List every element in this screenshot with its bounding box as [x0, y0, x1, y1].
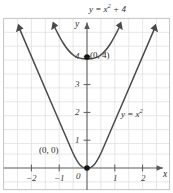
- y-tick-label-2: 2: [75, 108, 80, 117]
- graph-figure: y = x2 + 4 y = x2 (0, 4) (0, 0) y x −2 −…: [0, 0, 173, 193]
- y-tick-label-1: 1: [75, 136, 80, 145]
- point-label-0-4: (0, 4): [90, 51, 110, 60]
- origin-label: 0: [76, 172, 81, 181]
- y-axis-name: y: [75, 20, 79, 30]
- point-label-0-0: (0, 0): [39, 146, 59, 155]
- x-tick-label-1: 1: [113, 174, 118, 183]
- x-tick-label--1: −1: [54, 174, 65, 183]
- curve-label-x-squared: y = x2: [121, 108, 143, 119]
- curve-label-x-squared-plus-4-lhs: y = x: [89, 4, 108, 14]
- y-tick-label-3: 3: [75, 80, 80, 89]
- curve-label-x-squared-lhs: y = x: [121, 109, 140, 119]
- cartesian-plot-svg: [0, 0, 173, 193]
- y-tick-label-4: 4: [75, 52, 80, 61]
- curve-label-x-squared-plus-4: y = x2 + 4: [89, 3, 126, 14]
- point-marker-0-0: [84, 165, 90, 171]
- x-axis-name: x: [163, 170, 167, 180]
- x-tick-label-2: 2: [141, 174, 146, 183]
- curve-label-x-squared-exponent: 2: [140, 107, 143, 114]
- x-tick-label--2: −2: [26, 174, 37, 183]
- curve-label-x-squared-plus-4-rhs: + 4: [111, 4, 126, 14]
- point-marker-0-4: [84, 54, 90, 60]
